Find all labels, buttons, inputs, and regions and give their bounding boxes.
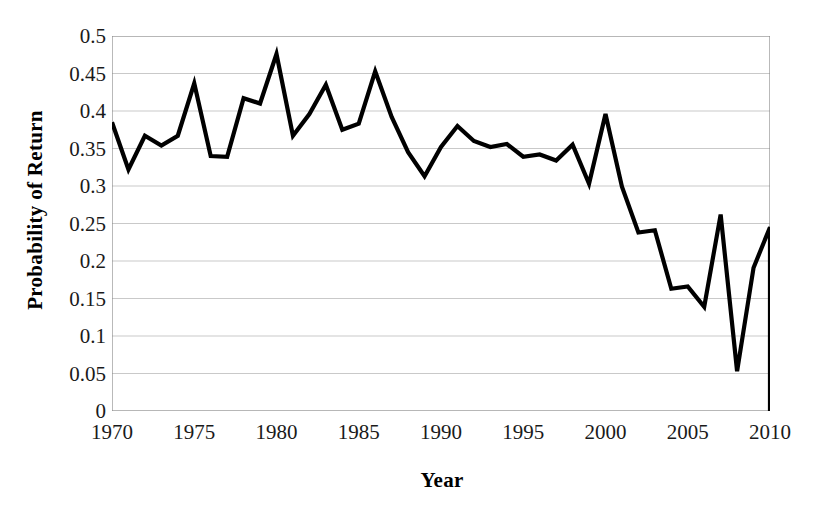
x-axis-tick-label: 1970 <box>67 420 157 445</box>
x-axis-tick-label: 1990 <box>396 420 486 445</box>
x-axis-tick-label: 1995 <box>478 420 568 445</box>
x-axis-title: Year <box>112 468 772 493</box>
x-axis-tick-label: 2000 <box>561 420 651 445</box>
x-axis-tick-label: 2005 <box>643 420 733 445</box>
data-line-probability-of-return <box>112 54 770 411</box>
x-axis-tick-label: 1980 <box>232 420 322 445</box>
x-axis-tick-label: 2010 <box>725 420 815 445</box>
plot-area <box>112 36 770 411</box>
chart-figure: Probability of Return 00.050.10.150.20.2… <box>0 0 824 528</box>
gridlines <box>112 36 770 411</box>
line-chart-svg <box>112 36 770 411</box>
x-axis-tick-label: 1975 <box>149 420 239 445</box>
x-axis-tick-label: 1985 <box>314 420 404 445</box>
